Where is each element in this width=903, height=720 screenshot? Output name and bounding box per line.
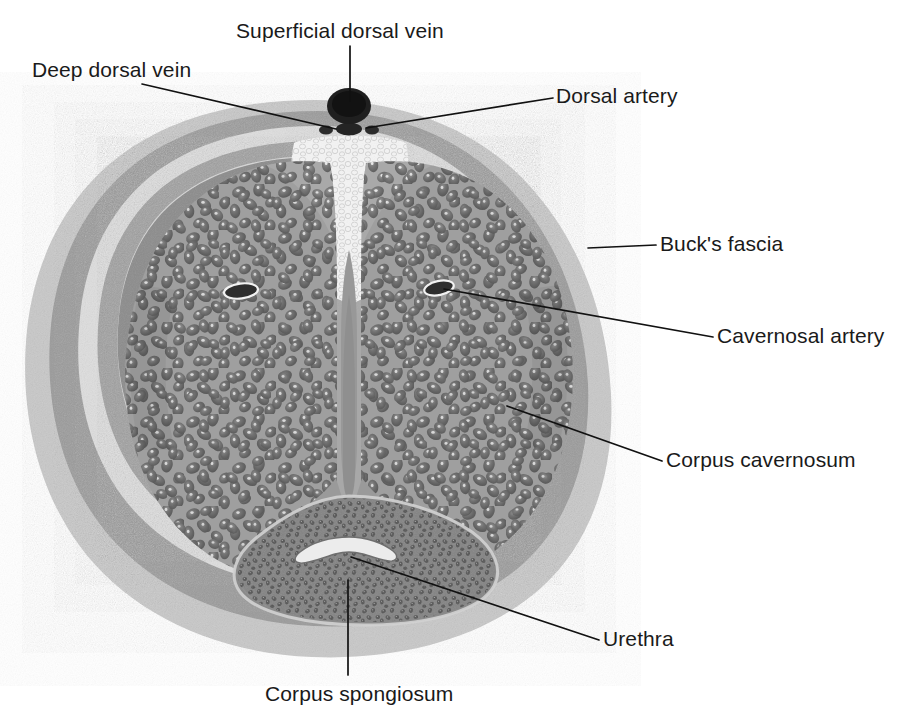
superficial-dorsal-vein-vessel — [327, 88, 371, 124]
label-corpus-cavernosum: Corpus cavernosum — [666, 448, 856, 471]
label-corpus-spongiosum: Corpus spongiosum — [265, 682, 453, 705]
label-deep-dorsal-vein: Deep dorsal vein — [32, 58, 191, 81]
label-urethra: Urethra — [603, 627, 674, 650]
label-cavernosal-artery: Cavernosal artery — [717, 324, 885, 347]
label-superficial-dorsal-vein: Superficial dorsal vein — [236, 19, 444, 42]
deep-dorsal-vein-vessel — [336, 123, 362, 136]
anatomy-diagram-svg: Superficial dorsal vein Deep dorsal vein… — [0, 0, 903, 720]
label-dorsal-artery: Dorsal artery — [556, 84, 678, 107]
anatomy-figure: Superficial dorsal vein Deep dorsal vein… — [0, 0, 903, 720]
label-bucks-fascia: Buck's fascia — [660, 232, 783, 255]
